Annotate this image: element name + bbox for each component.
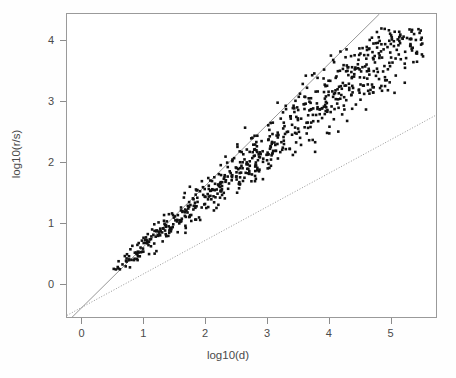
x-tick-label: 5	[379, 327, 403, 339]
plot-frame	[66, 13, 437, 318]
y-tick-mark	[60, 101, 66, 102]
y-tick-label: 2	[36, 156, 54, 168]
y-tick-label: 0	[36, 278, 54, 290]
y-tick-label: 1	[36, 217, 54, 229]
x-tick-label: 2	[193, 327, 217, 339]
y-tick-mark	[60, 284, 66, 285]
y-tick-mark	[60, 162, 66, 163]
lower-dotted-line	[67, 115, 436, 315]
x-tick-label: 1	[131, 327, 155, 339]
x-tick-mark	[267, 318, 268, 324]
x-tick-mark	[329, 318, 330, 324]
y-tick-mark	[60, 40, 66, 41]
x-tick-mark	[143, 318, 144, 324]
scatter-plot-figure: 012345 01234 log10(d) log10(r/s)	[0, 0, 456, 378]
y-tick-label: 3	[36, 95, 54, 107]
x-tick-mark	[81, 318, 82, 324]
x-tick-label: 3	[255, 327, 279, 339]
x-tick-label: 0	[69, 327, 93, 339]
x-tick-mark	[205, 318, 206, 324]
x-tick-label: 4	[317, 327, 341, 339]
scatter-points	[112, 27, 424, 271]
y-tick-label: 4	[36, 34, 54, 46]
y-axis-title: log10(r/s)	[10, 99, 22, 209]
x-axis-title: log10(d)	[0, 349, 456, 361]
x-tick-mark	[391, 318, 392, 324]
y-tick-mark	[60, 223, 66, 224]
plot-canvas	[67, 14, 436, 317]
